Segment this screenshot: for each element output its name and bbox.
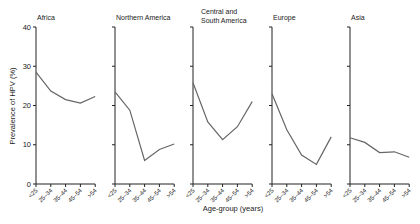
x-tick-label: 25–34 (37, 187, 54, 204)
series-line (36, 72, 95, 103)
y-tick-label: 10 (23, 140, 31, 149)
y-tick-label: 30 (23, 62, 31, 71)
y-tick-label: 0 (27, 180, 31, 189)
panel-asia: Asia<2525–3435–4445–54>54 (341, 14, 412, 204)
x-tick-label: 45–54 (381, 187, 398, 204)
panel-central-and-south-america: Central andSouth America<2525–3435–4445–… (184, 8, 255, 204)
y-tick-label: 20 (23, 101, 31, 110)
x-tick-label: 45–54 (67, 187, 84, 204)
x-tick-label: 45–54 (303, 187, 320, 204)
series-line (115, 92, 174, 161)
x-tick-label: <25 (184, 187, 196, 199)
panel-title: Africa (37, 14, 55, 21)
panels-group: Africa010203040<2525–3435–4445–54>54Nort… (23, 8, 413, 204)
x-tick-label: >54 (400, 187, 412, 199)
x-tick-label: >54 (243, 187, 255, 199)
x-tick-label: >54 (165, 187, 177, 199)
x-tick-label: 25–34 (116, 187, 133, 204)
x-tick-label: >54 (86, 187, 98, 199)
x-tick-label: 35–44 (131, 187, 148, 204)
x-tick-label: >54 (322, 187, 334, 199)
x-tick-label: <25 (106, 187, 118, 199)
panel-title: Asia (351, 14, 365, 21)
x-axis-label: Age-group (years) (203, 204, 264, 213)
series-line (272, 94, 331, 165)
x-tick-label: 35–44 (288, 187, 305, 204)
panel-northern-america: Northern America<2525–3435–4445–54>54 (106, 14, 177, 204)
x-tick-label: 35–44 (209, 187, 226, 204)
x-tick-label: 25–34 (273, 187, 290, 204)
series-line (350, 138, 409, 158)
y-axis-label: Prevalence of HPV (%) (8, 67, 17, 145)
y-tick-label: 40 (23, 23, 31, 32)
x-tick-label: 45–54 (224, 187, 241, 204)
x-tick-label: 35–44 (366, 187, 383, 204)
x-tick-label: 45–54 (146, 187, 163, 204)
hpv-prevalence-chart: Prevalence of HPV (%) Age-group (years) … (0, 0, 420, 224)
x-tick-label: <25 (341, 187, 353, 199)
panel-title: Europe (273, 14, 296, 22)
panel-africa: Africa010203040<2525–3435–4445–54>54 (23, 14, 99, 204)
x-tick-label: <25 (27, 187, 39, 199)
series-line (193, 83, 252, 140)
panel-title: Central and (201, 8, 237, 15)
panel-title: Northern America (116, 14, 171, 21)
x-tick-label: 25–34 (351, 187, 368, 204)
x-tick-label: 25–34 (194, 187, 211, 204)
panel-title: South America (201, 17, 247, 24)
panel-europe: Europe<2525–3435–4445–54>54 (263, 14, 334, 204)
x-tick-label: 35–44 (52, 187, 69, 204)
x-tick-label: <25 (263, 187, 275, 199)
